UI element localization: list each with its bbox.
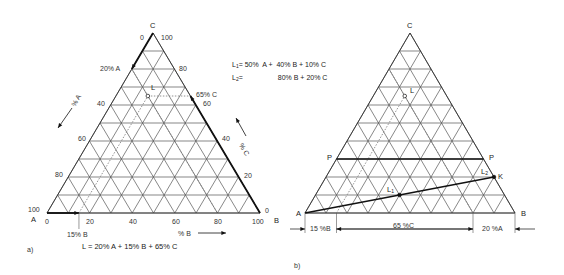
tick-c-100: 100 [161, 34, 173, 41]
point-l-label-b: L [410, 87, 414, 95]
grid-line [410, 123, 463, 213]
grid-line [494, 195, 505, 213]
grid-line [326, 51, 421, 213]
grid-line [142, 51, 238, 213]
corner-a-label-a: A [31, 216, 36, 224]
arrow-axis-b-head [221, 231, 226, 235]
point-l-label-a: L [151, 84, 155, 92]
corner-b-label-b: B [521, 210, 526, 218]
arrow-percent-c [190, 96, 260, 213]
grid-line [58, 195, 69, 213]
p-right-label: P [489, 154, 494, 162]
grid-line [400, 51, 495, 213]
dim-arrow-right-head [515, 227, 520, 231]
tick-c-20: 20 [244, 172, 252, 179]
tick-c-40: 40 [222, 135, 230, 142]
tick-c-60: 60 [203, 100, 211, 107]
legend-l1: L1= 50% A + 40% B + 10% C [232, 61, 326, 69]
tick-b-100: 100 [252, 218, 264, 225]
tick-c-80: 80 [179, 65, 187, 72]
axis-label-percent-b: % B [178, 230, 191, 237]
grid-line [452, 159, 484, 213]
tick-b-80: 80 [214, 218, 222, 225]
point-l-b [403, 94, 407, 98]
l1-label: L1 [387, 186, 394, 194]
grid-line [100, 123, 154, 213]
tick-a-80: 80 [55, 171, 63, 178]
tick-c-0: 0 [265, 207, 269, 214]
dim-15b: 15 %B [310, 225, 331, 232]
grid-line [154, 123, 207, 213]
annot-15b: 15% B [67, 231, 88, 238]
corner-c-label-a: C [150, 22, 155, 30]
k-label: K [498, 173, 503, 181]
grid-line [196, 159, 228, 213]
grid-line [111, 87, 185, 213]
dim-arrow-left-head [300, 227, 305, 231]
dim-20a: 20 %A [482, 225, 503, 232]
tick-a-0: 0 [140, 34, 144, 41]
grid-line [68, 51, 163, 213]
guide-constant-b [79, 96, 148, 213]
formula-a: L = 20% A + 15% B + 65% C [82, 243, 177, 251]
corner-a-label-b: A [296, 210, 301, 218]
point-k [492, 175, 496, 179]
point-l-a [146, 94, 150, 98]
tick-b-40: 40 [129, 218, 137, 225]
tick-a-20: 20% A [100, 65, 120, 72]
tick-a-100: 100 [28, 206, 40, 213]
tick-a-60: 60 [78, 135, 86, 142]
panel-label-a: a) [27, 246, 33, 253]
grid-line [358, 123, 411, 213]
l2-label: L2 [481, 168, 488, 176]
corner-c-label-b: C [407, 22, 412, 30]
grid-line [379, 87, 453, 213]
tick-b-20: 20 [86, 218, 94, 225]
tick-b-60: 60 [172, 218, 180, 225]
annot-65c: 65% C [196, 91, 217, 98]
tick-b-0: 0 [45, 218, 49, 225]
arrow-axis-a-head [58, 123, 62, 128]
grid-line [239, 195, 250, 213]
p-left-label: P [327, 154, 332, 162]
grid-line [121, 87, 196, 213]
point-l1 [398, 193, 402, 197]
dim-arrow-65c-right-head [468, 227, 473, 231]
legend-l2: L2= 80% B + 20% C [232, 74, 327, 82]
arrow-percent-b-head [74, 211, 79, 215]
panel-label-b: b) [294, 262, 300, 269]
corner-b-label-a: B [274, 217, 279, 225]
tick-a-40: 40 [97, 100, 105, 107]
dim-65c: 65 %C [393, 222, 414, 229]
